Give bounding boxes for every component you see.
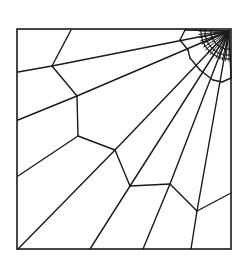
outer-edge [18, 136, 78, 176]
mesh-diagram [0, 0, 250, 268]
ring-edge [188, 50, 190, 58]
radial-line [52, 31, 229, 66]
outer-edge [18, 96, 77, 120]
outer-edge [90, 186, 130, 249]
chain-edge [78, 136, 115, 150]
ring-edge [190, 58, 200, 70]
outer-edge [18, 66, 52, 72]
chain-edge [115, 150, 130, 186]
outer-edge [143, 184, 170, 249]
outer-edge [191, 211, 197, 249]
ring-edge [222, 78, 231, 82]
outer-edge [52, 30, 71, 66]
ring-edge [200, 70, 213, 80]
radial-line [170, 31, 229, 184]
ring-edge [180, 40, 188, 50]
outer-edge [197, 193, 231, 211]
chain-edge [170, 184, 197, 211]
radial-line [115, 31, 229, 150]
radial-line [130, 31, 229, 186]
chain-edge [77, 96, 78, 136]
radial-line [185, 30, 229, 31]
diagram-canvas: Structured polygonal mesh inside a squar… [0, 0, 250, 268]
radial-lines [52, 30, 231, 211]
chain-edge [52, 66, 77, 96]
radial-line [77, 31, 229, 96]
radial-line [197, 31, 229, 211]
chain-edge [130, 184, 170, 186]
ring-edge [180, 30, 185, 40]
outer-edge [18, 150, 115, 249]
